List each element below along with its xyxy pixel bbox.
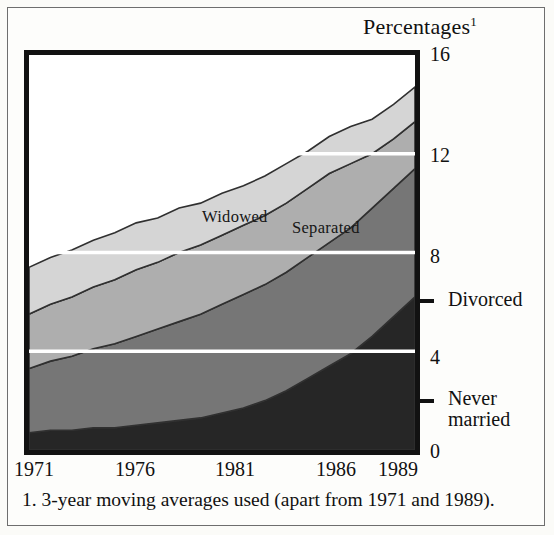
- figure-footnote: 1. 3-year moving averages used (apart fr…: [22, 489, 495, 511]
- ytick-mark-divorced: [420, 299, 434, 303]
- ytick-label-16: 16: [430, 43, 450, 66]
- series-label-never-married: Never married: [448, 388, 510, 430]
- band-label-widowed: Widowed: [202, 207, 268, 227]
- xtick-label-1989: 1989: [378, 458, 418, 481]
- ytick-label-12: 12: [430, 144, 450, 167]
- ytick-mark-never-married: [420, 399, 434, 403]
- plot-frame: [24, 50, 420, 455]
- ytick-label-0: 0: [430, 440, 440, 463]
- axis-title-text: Percentages: [363, 14, 470, 39]
- ytick-label-4: 4: [430, 346, 440, 369]
- series-label-divorced: Divorced: [448, 289, 522, 310]
- ytick-label-8: 8: [430, 245, 440, 268]
- series-label-never-married-line2: married: [448, 408, 510, 430]
- xtick-label-1986: 1986: [316, 458, 356, 481]
- axis-title: Percentages1: [363, 14, 477, 40]
- series-label-never-married-line1: Never: [448, 387, 497, 409]
- xtick-label-1976: 1976: [115, 458, 155, 481]
- band-label-separated: Separated: [292, 218, 360, 238]
- axis-title-footnote-marker: 1: [470, 14, 477, 29]
- xtick-label-1981: 1981: [215, 458, 255, 481]
- xtick-label-1971: 1971: [14, 458, 54, 481]
- figure-stacked-area-marital-status: Percentages1 Widowed Separated 16 12 8 4…: [0, 0, 554, 535]
- stacked-area-chart: [29, 55, 415, 450]
- plot-area: Widowed Separated: [24, 50, 420, 455]
